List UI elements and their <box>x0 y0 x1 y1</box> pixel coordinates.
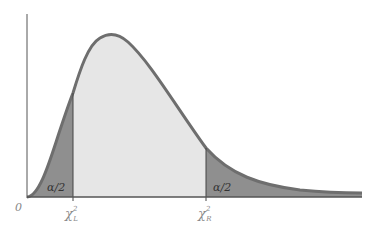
chi-right-label: χ2R <box>198 203 216 222</box>
chi-right-sup: 2 <box>206 205 210 213</box>
origin-label: 0 <box>15 201 22 214</box>
chi-right-sub: R <box>206 215 211 223</box>
right-tail-label: α/2 <box>213 181 231 194</box>
chi-square-diagram <box>0 0 382 237</box>
left-tail-label: α/2 <box>47 181 65 194</box>
chi-right-base: χ <box>198 206 206 221</box>
center-region <box>73 35 206 197</box>
chi-left-sup: 2 <box>73 205 77 213</box>
chi-left-base: χ <box>65 206 73 221</box>
chi-left-sub: L <box>73 215 78 223</box>
chi-left-label: χ2L <box>65 203 82 222</box>
